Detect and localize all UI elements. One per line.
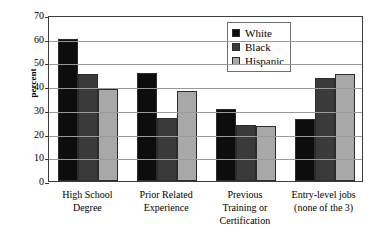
gridline — [49, 159, 362, 160]
y-tickmark — [45, 159, 49, 160]
y-tick-label: 0 — [18, 177, 44, 187]
bar — [335, 74, 355, 181]
x-category-label-line: Training or — [200, 201, 291, 214]
bar — [236, 125, 256, 181]
plot-area: WhiteBlackHispanic — [48, 16, 363, 182]
y-tickmark — [45, 183, 49, 184]
y-tick-label: 60 — [18, 35, 44, 45]
x-category-label-line: Experience — [121, 201, 212, 214]
bar — [295, 119, 315, 181]
y-tick-label: 20 — [18, 130, 44, 140]
y-tick-label: 50 — [18, 58, 44, 68]
y-tick-label: 30 — [18, 106, 44, 116]
legend-label: White — [245, 28, 272, 39]
x-axis-category-labels: High SchoolDegreePrior RelatedExperience… — [48, 188, 363, 239]
y-tickmark — [45, 136, 49, 137]
legend-item: Black — [232, 40, 284, 54]
gridline — [49, 112, 362, 113]
gridline — [49, 88, 362, 89]
x-category-label-line: Entry-level jobs — [278, 188, 369, 201]
legend-item: Hispanic — [232, 54, 284, 68]
bar — [137, 73, 157, 181]
x-category-label: PreviousTraining orCertification — [200, 188, 291, 227]
y-tick-label: 40 — [18, 82, 44, 92]
bar — [216, 109, 236, 181]
x-category-label: High SchoolDegree — [42, 188, 133, 214]
y-tickmark — [45, 64, 49, 65]
legend-swatch-icon — [232, 29, 240, 37]
y-tickmark — [45, 17, 49, 18]
y-tick-label: 70 — [18, 11, 44, 21]
x-category-label-line: High School — [42, 188, 133, 201]
y-tickmark — [45, 41, 49, 42]
x-category-label-line: (none of the 3) — [278, 201, 369, 214]
legend-item: White — [232, 26, 284, 40]
x-category-label: Prior RelatedExperience — [121, 188, 212, 214]
bar-chart: percent 010203040506070 WhiteBlackHispan… — [0, 0, 385, 239]
legend-label: Black — [245, 42, 271, 53]
gridline — [49, 136, 362, 137]
bar — [157, 118, 177, 181]
y-tick-label: 10 — [18, 153, 44, 163]
x-category-label-line: Degree — [42, 201, 133, 214]
y-tickmark — [45, 112, 49, 113]
legend-swatch-icon — [232, 43, 240, 51]
bar — [78, 74, 98, 181]
gridline — [49, 64, 362, 65]
y-tickmark — [45, 88, 49, 89]
gridline — [49, 41, 362, 42]
x-category-label-line: Previous — [200, 188, 291, 201]
x-category-label: Entry-level jobs(none of the 3) — [278, 188, 369, 214]
x-category-label-line: Prior Related — [121, 188, 212, 201]
x-category-label-line: Certification — [200, 214, 291, 227]
y-axis-tick-labels: 010203040506070 — [18, 0, 44, 239]
bar — [315, 78, 335, 181]
